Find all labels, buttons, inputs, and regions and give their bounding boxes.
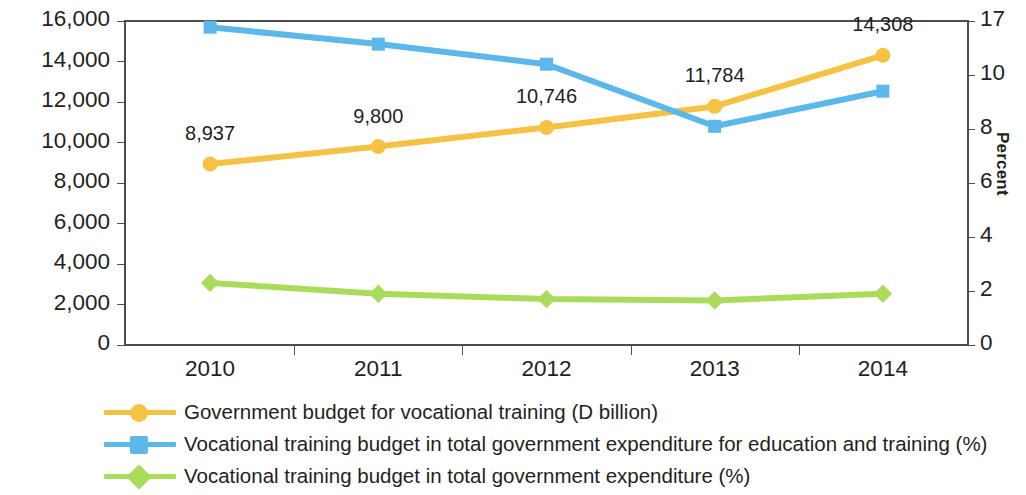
series-marker bbox=[706, 291, 724, 309]
series-marker bbox=[874, 285, 892, 303]
series-marker bbox=[372, 38, 385, 51]
legend-key bbox=[104, 403, 176, 421]
legend-marker-circle-icon bbox=[130, 404, 148, 422]
series-marker bbox=[371, 139, 386, 154]
series-marker bbox=[707, 99, 722, 114]
data-point-label: 9,800 bbox=[353, 105, 403, 128]
legend-item[interactable]: Vocational training budget in total gove… bbox=[104, 428, 1004, 460]
series-marker bbox=[708, 120, 721, 133]
legend-marker-square-icon bbox=[130, 436, 148, 454]
data-point-label: 11,784 bbox=[685, 64, 745, 87]
series-marker bbox=[539, 120, 554, 135]
series-marker bbox=[201, 274, 219, 292]
legend-marker-diamond-icon bbox=[126, 464, 151, 489]
legend-label: Vocational training budget in total gove… bbox=[184, 434, 987, 455]
legend-item[interactable]: Vocational training budget in total gove… bbox=[104, 460, 1004, 492]
legend-item[interactable]: Government budget for vocational trainin… bbox=[104, 396, 1004, 428]
series-line bbox=[210, 27, 883, 126]
series-marker bbox=[875, 48, 890, 63]
series-marker bbox=[540, 58, 553, 71]
series-marker bbox=[369, 285, 387, 303]
chart-legend: Government budget for vocational trainin… bbox=[104, 396, 1004, 492]
legend-label: Government budget for vocational trainin… bbox=[184, 402, 658, 423]
data-point-label: 10,746 bbox=[516, 85, 577, 108]
data-point-label: 14,308 bbox=[852, 13, 913, 36]
data-point-label: 8,937 bbox=[185, 122, 235, 145]
legend-key bbox=[104, 467, 176, 485]
legend-label: Vocational training budget in total gove… bbox=[184, 466, 750, 487]
series-marker bbox=[203, 157, 218, 172]
series-marker bbox=[876, 85, 889, 98]
series-3 bbox=[201, 274, 892, 310]
series-marker bbox=[204, 21, 217, 34]
legend-key bbox=[104, 435, 176, 453]
chart-figure: 02,0004,0006,0008,00010,00012,00014,0001… bbox=[0, 0, 1026, 495]
series-marker bbox=[537, 290, 555, 308]
series-2 bbox=[204, 21, 890, 133]
